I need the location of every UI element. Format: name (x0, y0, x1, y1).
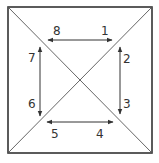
label-5: 5 (51, 127, 59, 141)
label-8: 8 (53, 24, 61, 38)
square-diagonal-diagram: 8 1 2 3 4 5 6 7 (0, 0, 159, 163)
label-1: 1 (101, 24, 109, 38)
label-7: 7 (28, 51, 36, 65)
label-2: 2 (123, 52, 131, 66)
label-3: 3 (123, 97, 131, 111)
label-4: 4 (96, 127, 104, 141)
label-6: 6 (28, 97, 36, 111)
